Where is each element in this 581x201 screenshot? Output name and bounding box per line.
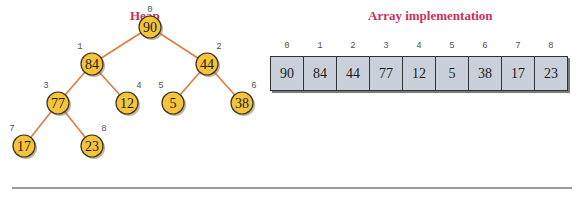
svg-text:5: 5 [170, 96, 177, 111]
heap-node: 900 [139, 5, 163, 40]
heap-node: 124 [116, 81, 142, 116]
array-value: 17 [511, 66, 525, 82]
array-cell: 55 [435, 56, 469, 91]
array-cell: 638 [468, 56, 502, 91]
array-cell: 412 [402, 56, 436, 91]
array-value: 23 [544, 66, 558, 82]
svg-text:5: 5 [158, 81, 163, 91]
svg-text:17: 17 [17, 139, 31, 154]
array-implementation: 09018424437741255638717823 [270, 56, 568, 91]
svg-text:44: 44 [200, 57, 214, 72]
svg-text:0: 0 [147, 5, 152, 15]
array-index: 6 [469, 41, 501, 51]
array-cell: 090 [270, 56, 304, 91]
heap-node: 177 [9, 124, 37, 159]
heap-node: 386 [231, 81, 257, 116]
array-value: 38 [478, 66, 492, 82]
svg-text:7: 7 [9, 124, 14, 134]
svg-text:12: 12 [120, 96, 134, 111]
svg-text:3: 3 [43, 81, 48, 91]
array-index: 1 [304, 41, 336, 51]
heap-node: 773 [43, 81, 71, 116]
svg-text:90: 90 [143, 20, 157, 35]
svg-text:8: 8 [101, 124, 106, 134]
array-cell: 244 [336, 56, 370, 91]
array-cell: 377 [369, 56, 403, 91]
svg-text:77: 77 [51, 96, 65, 111]
array-index: 2 [337, 41, 369, 51]
divider [12, 187, 572, 189]
array-cell: 184 [303, 56, 337, 91]
svg-text:2: 2 [216, 42, 221, 52]
svg-text:1: 1 [77, 42, 82, 52]
heap-node: 238 [81, 124, 107, 159]
svg-text:38: 38 [235, 96, 249, 111]
array-value: 12 [412, 66, 426, 82]
array-value: 90 [280, 66, 294, 82]
svg-text:84: 84 [85, 57, 99, 72]
array-value: 44 [346, 66, 360, 82]
array-cell: 717 [501, 56, 535, 91]
svg-text:23: 23 [85, 139, 99, 154]
array-cell: 823 [534, 56, 568, 91]
array-value: 84 [313, 66, 327, 82]
array-value: 77 [379, 66, 393, 82]
svg-text:4: 4 [136, 81, 141, 91]
heap-tree: 90084144277312455386177238 [0, 0, 300, 201]
heap-node: 841 [77, 42, 105, 77]
heap-node: 55 [158, 81, 186, 116]
array-index: 3 [370, 41, 402, 51]
array-index: 7 [502, 41, 534, 51]
array-value: 5 [449, 66, 456, 82]
array-index: 4 [403, 41, 435, 51]
svg-text:6: 6 [251, 81, 256, 91]
array-title: Array implementation [368, 8, 493, 24]
array-index: 5 [436, 41, 468, 51]
heap-node: 442 [196, 42, 222, 77]
array-index: 0 [271, 41, 303, 51]
array-index: 8 [535, 41, 567, 51]
heap-edges [24, 27, 242, 146]
